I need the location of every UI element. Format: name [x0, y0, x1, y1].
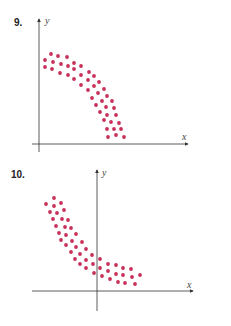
data-point — [112, 106, 116, 110]
data-point — [49, 52, 53, 56]
data-point — [65, 55, 69, 59]
data-point — [72, 67, 76, 71]
data-point — [51, 217, 55, 221]
chart-9-x-label: x — [181, 131, 187, 142]
data-point — [52, 204, 56, 208]
data-point — [57, 231, 61, 235]
data-point — [100, 99, 104, 103]
data-point — [44, 202, 48, 206]
data-point — [100, 274, 104, 278]
chart-9: 9. y x — [14, 15, 188, 152]
data-point — [79, 64, 83, 68]
data-point — [84, 266, 88, 270]
data-point — [66, 73, 70, 77]
data-point — [78, 262, 82, 266]
scatter-figures: 9. y x 10. y x — [0, 0, 231, 326]
data-point — [59, 62, 63, 66]
data-point — [79, 83, 83, 87]
data-point — [129, 267, 133, 271]
data-point — [98, 257, 102, 261]
data-point — [106, 269, 110, 273]
data-point — [69, 250, 73, 254]
data-point — [106, 262, 110, 266]
data-point — [62, 208, 66, 212]
chart-10-points — [44, 196, 142, 286]
data-point — [79, 73, 83, 77]
data-point — [116, 280, 120, 284]
chart-9-number: 9. — [14, 17, 23, 28]
data-point — [64, 243, 68, 247]
data-point — [74, 232, 78, 236]
data-point — [105, 113, 109, 117]
data-point — [63, 225, 67, 229]
data-point — [84, 258, 88, 262]
chart-10-y-label: y — [101, 167, 107, 178]
data-point — [59, 201, 63, 205]
data-point — [90, 253, 94, 257]
chart-9-points — [43, 52, 126, 139]
data-point — [78, 252, 82, 256]
data-point — [92, 74, 96, 78]
data-point — [64, 233, 68, 237]
data-point — [56, 54, 60, 58]
data-point — [60, 217, 64, 221]
data-point — [102, 87, 106, 91]
data-point — [109, 120, 113, 124]
data-point — [86, 88, 90, 92]
data-point — [121, 273, 125, 277]
data-point — [50, 67, 54, 71]
data-point — [105, 94, 109, 98]
data-point — [114, 133, 118, 137]
data-point — [87, 70, 91, 74]
data-point — [97, 80, 101, 84]
data-point — [119, 127, 123, 131]
data-point — [48, 210, 52, 214]
chart-9-y-label: y — [44, 15, 50, 26]
chart-10: 10. y x — [11, 167, 193, 311]
data-point — [69, 226, 73, 230]
data-point — [51, 60, 55, 64]
data-point — [43, 65, 47, 69]
data-point — [96, 91, 100, 95]
data-point — [117, 121, 121, 125]
data-point — [112, 127, 116, 131]
data-point — [90, 96, 94, 100]
data-point — [122, 135, 126, 139]
data-point — [92, 84, 96, 88]
data-point — [80, 240, 84, 244]
chart-10-x-label: x — [186, 279, 192, 290]
data-point — [52, 196, 56, 200]
data-point — [70, 239, 74, 243]
data-point — [55, 211, 59, 215]
data-point — [84, 247, 88, 251]
data-point — [138, 273, 142, 277]
data-point — [74, 245, 78, 249]
data-point — [66, 218, 70, 222]
data-point — [114, 272, 118, 276]
data-point — [130, 275, 134, 279]
data-point — [98, 266, 102, 270]
data-point — [72, 61, 76, 65]
data-point — [123, 281, 127, 285]
data-point — [72, 77, 76, 81]
data-point — [43, 58, 47, 62]
data-point — [92, 271, 96, 275]
data-point — [105, 127, 109, 131]
data-point — [58, 71, 62, 75]
data-point — [114, 113, 118, 117]
data-point — [133, 282, 137, 286]
data-point — [73, 257, 77, 261]
data-point — [121, 266, 125, 270]
data-point — [86, 78, 90, 82]
data-point — [114, 263, 118, 267]
data-point — [108, 277, 112, 281]
data-point — [91, 262, 95, 266]
chart-10-number: 10. — [11, 169, 25, 180]
data-point — [102, 118, 106, 122]
data-point — [104, 105, 108, 109]
data-point — [94, 103, 98, 107]
data-point — [106, 135, 110, 139]
data-point — [54, 224, 58, 228]
data-point — [98, 110, 102, 114]
data-point — [59, 238, 63, 242]
